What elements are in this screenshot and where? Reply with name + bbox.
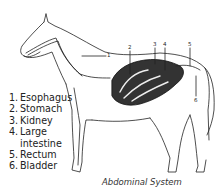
legend-item: 6.Bladder: [9, 160, 72, 171]
diagram-caption: Abdominal System: [102, 177, 182, 187]
callout-2: 2: [128, 44, 132, 50]
callout-6: 6: [194, 97, 198, 103]
callout-4: 4: [163, 41, 167, 47]
callout-5: 5: [188, 41, 192, 47]
legend-item: 5.Rectum: [9, 149, 72, 160]
callout-3: 3: [153, 41, 157, 47]
abdominal-system-diagram: 1 2 3 4 5 6 1.Esophagus 2.Stomach 3.Kidn…: [0, 0, 221, 193]
callout-1: 1: [107, 52, 111, 58]
legend-item: 3.Kidney: [9, 115, 72, 126]
legend-item: 4.Large: [9, 126, 72, 137]
organ-legend: 1.Esophagus 2.Stomach 3.Kidney 4.Large i…: [9, 92, 72, 172]
legend-item: 2.Stomach: [9, 103, 72, 114]
legend-item: intestine: [9, 138, 72, 149]
legend-item: 1.Esophagus: [9, 92, 72, 103]
